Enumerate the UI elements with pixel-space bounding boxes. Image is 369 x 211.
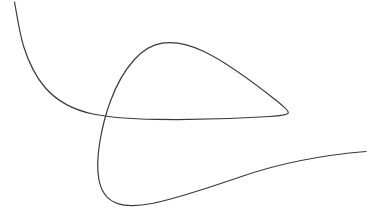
canvas-background <box>0 0 369 211</box>
curve-svg: Abstract Continuous Curve A single conti… <box>0 0 369 211</box>
drawing-canvas: Abstract Continuous Curve A single conti… <box>0 0 369 211</box>
